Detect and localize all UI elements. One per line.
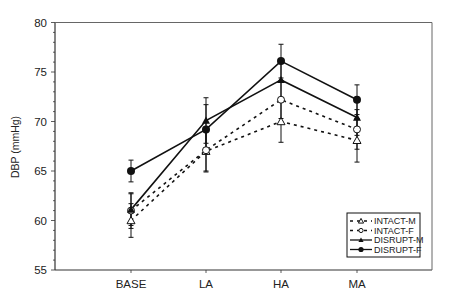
filled-circle-marker-icon [127, 167, 135, 175]
x-tick-label: MA [348, 278, 366, 290]
series-line-intact-m [131, 122, 357, 221]
filled-triangle-marker-icon [353, 114, 361, 121]
open-circle-marker-icon [278, 96, 285, 103]
x-tick-label: HA [273, 278, 289, 290]
open-triangle-marker-icon [277, 118, 285, 125]
filled-circle-marker-icon [358, 247, 363, 252]
legend-label: DISRUPT-F [374, 245, 422, 255]
series-line-intact-f [131, 100, 357, 211]
filled-circle-marker-icon [202, 125, 210, 133]
y-tick-label: 65 [34, 165, 47, 177]
filled-triangle-marker-icon [202, 117, 210, 124]
legend-label: DISRUPT-M [374, 235, 424, 245]
open-circle-marker-icon [203, 147, 210, 154]
x-tick-label: BASE [116, 278, 147, 290]
legend-label: INTACT-M [374, 216, 416, 226]
legend-label: INTACT-F [374, 226, 414, 236]
open-circle-marker-icon [359, 228, 363, 232]
open-circle-marker-icon [354, 126, 361, 133]
y-tick-label: 70 [34, 116, 47, 128]
x-tick-label: LA [199, 278, 213, 290]
y-tick-label: 60 [34, 215, 47, 227]
chart-container: 556065707580BASELAHAMA INTACT-MINTACT-FD… [0, 0, 450, 306]
series-line-disrupt-m [131, 80, 357, 210]
filled-circle-marker-icon [353, 96, 361, 104]
y-tick-label: 80 [34, 17, 47, 29]
y-tick-label: 75 [34, 66, 47, 78]
dbp-line-chart: 556065707580BASELAHAMA INTACT-MINTACT-FD… [0, 0, 450, 306]
open-triangle-marker-icon [353, 136, 361, 143]
filled-circle-marker-icon [277, 57, 285, 65]
y-axis-title: DBP (mmHg) [9, 116, 21, 178]
y-tick-label: 55 [34, 264, 47, 276]
open-triangle-marker-icon [127, 217, 135, 224]
filled-triangle-marker-icon [277, 76, 285, 83]
legend: INTACT-MINTACT-FDISRUPT-MDISRUPT-F [347, 213, 424, 257]
data-series [127, 44, 361, 237]
